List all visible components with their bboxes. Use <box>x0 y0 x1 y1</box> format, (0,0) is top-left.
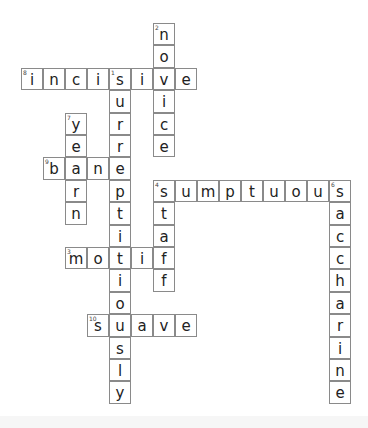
crossword-cell[interactable]: r <box>65 180 87 202</box>
crossword-cell[interactable]: y <box>109 381 131 403</box>
crossword-cell[interactable]: i <box>109 269 131 291</box>
crossword-cell[interactable]: c <box>153 113 175 135</box>
crossword-cell[interactable]: f <box>153 269 175 291</box>
crossword-cell[interactable]: t <box>109 202 131 224</box>
crossword-cell[interactable]: u <box>109 90 131 112</box>
crossword-cell[interactable]: e <box>65 135 87 157</box>
cell-letter: o <box>110 294 130 314</box>
cell-letter: u <box>176 182 196 202</box>
crossword-cell[interactable]: h <box>329 269 351 291</box>
cell-letter: p <box>110 182 130 202</box>
cell-letter: n <box>88 159 108 179</box>
crossword-cell[interactable]: m <box>197 180 219 202</box>
cell-letter: u <box>264 182 284 202</box>
crossword-cell[interactable]: 3m <box>65 247 87 269</box>
crossword-cell[interactable]: t <box>109 247 131 269</box>
crossword-cell[interactable]: a <box>153 225 175 247</box>
crossword-cell[interactable]: v <box>153 68 175 90</box>
crossword-cell[interactable]: 2n <box>153 23 175 45</box>
crossword-cell[interactable]: o <box>285 180 307 202</box>
crossword-cell[interactable]: f <box>153 247 175 269</box>
crossword-grid: 1surreptitiously2novice3moif4sumptuou6st… <box>0 0 368 428</box>
crossword-cell[interactable]: 9b <box>43 157 65 179</box>
crossword-cell[interactable]: 1s <box>109 68 131 90</box>
crossword-cell[interactable]: e <box>109 157 131 179</box>
cell-letter: n <box>66 204 86 224</box>
crossword-cell[interactable]: 4s <box>153 180 175 202</box>
crossword-cell[interactable]: r <box>329 314 351 336</box>
cell-letter: a <box>132 316 152 336</box>
crossword-cell[interactable]: 6s <box>329 180 351 202</box>
crossword-cell[interactable]: a <box>329 202 351 224</box>
crossword-cell[interactable]: 10s <box>87 314 109 336</box>
crossword-cell[interactable]: v <box>153 314 175 336</box>
crossword-cell[interactable]: n <box>65 202 87 224</box>
crossword-cell[interactable]: c <box>65 68 87 90</box>
crossword-cell[interactable]: i <box>153 90 175 112</box>
cell-letter: r <box>330 316 350 336</box>
crossword-cell[interactable]: n <box>329 359 351 381</box>
crossword-cell[interactable]: n <box>43 68 65 90</box>
cell-letter: f <box>154 271 174 291</box>
cell-letter: c <box>154 115 174 135</box>
cell-letter: o <box>286 182 306 202</box>
crossword-cell[interactable]: i <box>109 225 131 247</box>
cell-letter: s <box>110 339 130 359</box>
cell-letter: e <box>66 137 86 157</box>
cell-letter: c <box>66 70 86 90</box>
cell-letter: t <box>110 204 130 224</box>
crossword-cell[interactable]: n <box>87 157 109 179</box>
crossword-cell[interactable]: e <box>153 135 175 157</box>
cell-letter: s <box>88 316 108 336</box>
crossword-cell[interactable]: a <box>65 157 87 179</box>
crossword-cell[interactable]: a <box>329 292 351 314</box>
cell-letter: c <box>330 249 350 269</box>
cell-letter: i <box>22 70 42 90</box>
cell-letter: s <box>110 70 130 90</box>
crossword-cell[interactable]: u <box>263 180 285 202</box>
crossword-cell[interactable]: p <box>219 180 241 202</box>
cell-letter: m <box>66 249 86 269</box>
crossword-cell[interactable]: o <box>109 292 131 314</box>
crossword-cell[interactable]: r <box>109 135 131 157</box>
cell-letter: e <box>154 137 174 157</box>
crossword-cell[interactable]: a <box>131 314 153 336</box>
crossword-cell[interactable]: e <box>175 314 197 336</box>
crossword-cell[interactable]: u <box>175 180 197 202</box>
cell-letter: m <box>198 182 218 202</box>
crossword-cell[interactable]: l <box>109 359 131 381</box>
cell-letter: i <box>132 70 152 90</box>
crossword-cell[interactable]: i <box>131 68 153 90</box>
crossword-cell[interactable]: i <box>87 68 109 90</box>
crossword-cell[interactable]: 8i <box>21 68 43 90</box>
cell-letter: e <box>176 316 196 336</box>
crossword-cell[interactable]: u <box>109 314 131 336</box>
crossword-cell[interactable]: 7y <box>65 113 87 135</box>
cell-letter: v <box>154 70 174 90</box>
cell-letter: b <box>44 159 64 179</box>
cell-letter: e <box>110 159 130 179</box>
cell-letter: e <box>330 383 350 403</box>
crossword-cell[interactable]: e <box>329 381 351 403</box>
crossword-cell[interactable]: i <box>131 247 153 269</box>
crossword-cell[interactable]: r <box>109 113 131 135</box>
crossword-cell[interactable]: c <box>329 225 351 247</box>
cell-letter: s <box>154 182 174 202</box>
cell-letter: s <box>330 182 350 202</box>
crossword-cell[interactable]: t <box>241 180 263 202</box>
crossword-cell[interactable]: s <box>109 337 131 359</box>
crossword-cell[interactable]: c <box>329 247 351 269</box>
crossword-cell[interactable]: i <box>329 337 351 359</box>
crossword-cell[interactable]: e <box>175 68 197 90</box>
crossword-cell[interactable]: u <box>307 180 329 202</box>
cell-letter: c <box>330 227 350 247</box>
cell-letter: t <box>154 204 174 224</box>
cell-letter: r <box>110 115 130 135</box>
cell-letter: u <box>110 316 130 336</box>
cell-letter: u <box>110 92 130 112</box>
crossword-cell[interactable]: p <box>109 180 131 202</box>
crossword-cell[interactable]: o <box>87 247 109 269</box>
crossword-cell[interactable]: t <box>153 202 175 224</box>
crossword-cell[interactable]: o <box>153 45 175 67</box>
cell-letter: f <box>154 249 174 269</box>
